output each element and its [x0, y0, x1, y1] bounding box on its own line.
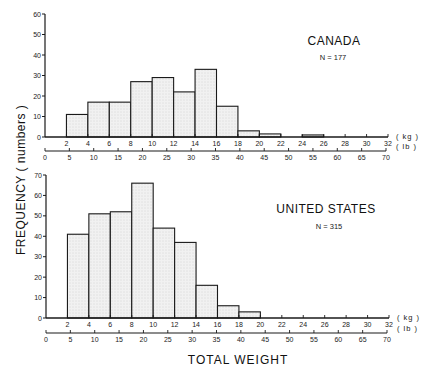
lb-tick-label: 25 — [163, 154, 171, 161]
kg-tick-label: 4 — [86, 140, 90, 147]
y-tick-label: 50 — [34, 212, 42, 219]
lb-tick-label: 35 — [212, 154, 220, 161]
kg-unit-label: ( kg ) — [396, 132, 419, 141]
lb-tick-label: 60 — [334, 336, 342, 343]
lb-tick-label: 50 — [286, 336, 294, 343]
lb-tick-label: 35 — [213, 336, 221, 343]
panel-title: UNITED STATES — [276, 202, 375, 216]
lb-tick-label: 10 — [90, 154, 98, 161]
y-tick-label: 30 — [33, 72, 41, 79]
histogram-bar — [218, 306, 239, 318]
histogram-bar — [153, 228, 174, 318]
kg-tick-label: 26 — [321, 321, 329, 328]
lb-tick-label: 25 — [164, 336, 172, 343]
histogram-figure: 0102030405060246810121416182022242628303… — [0, 0, 431, 378]
lb-tick-label: 0 — [43, 154, 47, 161]
kg-tick-label: 6 — [108, 321, 112, 328]
kg-tick-label: 12 — [171, 321, 179, 328]
united-states-histogram: 0102030405060702468101214161820222426283… — [34, 172, 420, 344]
lb-tick-label: 45 — [261, 336, 269, 343]
histogram-bar — [238, 131, 259, 137]
kg-tick-label: 28 — [342, 321, 350, 328]
lb-tick-label: 15 — [115, 336, 123, 343]
lb-tick-label: 65 — [359, 336, 367, 343]
histogram-bar — [110, 212, 131, 318]
panel-title: CANADA — [307, 34, 360, 48]
kg-tick-label: 16 — [213, 140, 221, 147]
kg-tick-label: 20 — [255, 140, 263, 147]
lb-tick-label: 5 — [67, 154, 71, 161]
lb-tick-label: 30 — [188, 336, 196, 343]
lb-tick-label: 55 — [310, 336, 318, 343]
sample-size-label: N = 315 — [316, 222, 342, 231]
lb-tick-label: 50 — [285, 154, 293, 161]
histogram-bar — [66, 114, 87, 137]
y-tick-label: 50 — [33, 31, 41, 38]
kg-tick-label: 14 — [191, 140, 199, 147]
y-tick-label: 10 — [34, 294, 42, 301]
kg-tick-label: 18 — [235, 321, 243, 328]
histogram-bar — [195, 69, 216, 137]
kg-tick-label: 18 — [234, 140, 242, 147]
sample-size-label: N = 177 — [320, 53, 346, 62]
kg-tick-label: 2 — [65, 321, 69, 328]
kg-tick-label: 22 — [278, 321, 286, 328]
canada-histogram: 0102030405060246810121416182022242628303… — [33, 11, 419, 162]
y-tick-label: 60 — [34, 192, 42, 199]
kg-tick-label: 28 — [341, 140, 349, 147]
y-tick-label: 0 — [37, 134, 41, 141]
x-axis-label: TOTAL WEIGHT — [188, 353, 288, 367]
lb-tick-label: 20 — [139, 154, 147, 161]
kg-tick-label: 6 — [107, 140, 111, 147]
lb-unit-label: ( lb ) — [397, 324, 418, 333]
kg-tick-label: 10 — [149, 321, 157, 328]
histogram-bar — [109, 102, 130, 137]
y-tick-label: 10 — [33, 113, 41, 120]
lb-tick-label: 20 — [140, 336, 148, 343]
kg-tick-label: 30 — [363, 140, 371, 147]
histogram-bar — [67, 234, 88, 318]
histogram-bar — [132, 183, 153, 318]
kg-tick-label: 32 — [384, 140, 392, 147]
kg-tick-label: 8 — [129, 140, 133, 147]
y-axis-label: FREQUENCY ( numbers ) — [14, 105, 28, 255]
lb-tick-label: 10 — [91, 336, 99, 343]
lb-unit-label: ( lb ) — [396, 142, 417, 151]
kg-tick-label: 20 — [256, 321, 264, 328]
kg-tick-label: 24 — [298, 140, 306, 147]
kg-tick-label: 2 — [64, 140, 68, 147]
histogram-bar — [131, 82, 152, 137]
lb-tick-label: 65 — [358, 154, 366, 161]
lb-tick-label: 0 — [44, 336, 48, 343]
kg-unit-label: ( kg ) — [397, 313, 420, 322]
kg-tick-label: 14 — [192, 321, 200, 328]
lb-tick-label: 5 — [68, 336, 72, 343]
kg-tick-label: 10 — [148, 140, 156, 147]
lb-tick-label: 60 — [333, 154, 341, 161]
y-tick-label: 30 — [34, 253, 42, 260]
kg-tick-label: 24 — [299, 321, 307, 328]
histogram-bar — [88, 102, 109, 137]
lb-tick-label: 70 — [382, 154, 390, 161]
kg-tick-label: 32 — [385, 321, 393, 328]
kg-tick-label: 30 — [364, 321, 372, 328]
kg-tick-label: 22 — [277, 140, 285, 147]
lb-tick-label: 40 — [237, 336, 245, 343]
histogram-bar — [174, 92, 195, 137]
y-tick-label: 20 — [33, 93, 41, 100]
y-tick-label: 0 — [38, 315, 42, 322]
kg-tick-label: 26 — [320, 140, 328, 147]
histogram-bar — [217, 106, 238, 137]
kg-tick-label: 16 — [214, 321, 222, 328]
lb-tick-label: 40 — [236, 154, 244, 161]
lb-tick-label: 15 — [114, 154, 122, 161]
kg-tick-label: 4 — [87, 321, 91, 328]
histogram-bar — [175, 242, 196, 318]
histogram-bar — [152, 78, 173, 137]
kg-tick-label: 8 — [130, 321, 134, 328]
y-tick-label: 60 — [33, 11, 41, 18]
lb-tick-label: 55 — [309, 154, 317, 161]
y-tick-label: 40 — [33, 52, 41, 59]
lb-tick-label: 70 — [383, 336, 391, 343]
kg-tick-label: 12 — [170, 140, 178, 147]
